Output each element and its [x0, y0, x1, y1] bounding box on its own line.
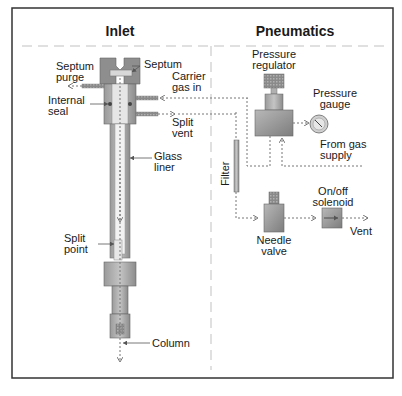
split-inlet-diagram: Inlet Pneumatics	[0, 0, 402, 396]
label-column: Column	[152, 337, 190, 349]
label-on-off-solenoid: On/offsolenoid	[313, 185, 354, 208]
pneumatics-title: Pneumatics	[256, 23, 335, 39]
label-needle-valve: Needlevalve	[257, 234, 292, 257]
label-filter: Filter	[219, 161, 231, 186]
inlet-title: Inlet	[106, 23, 135, 39]
label-pressure-regulator: Pressureregulator	[252, 48, 296, 71]
pressure-gauge	[310, 115, 328, 133]
label-split-point: Splitpoint	[64, 232, 88, 255]
septum	[110, 70, 132, 76]
label-split-vent: Splitvent	[172, 116, 193, 139]
filter	[234, 140, 239, 192]
on-off-solenoid	[322, 208, 342, 228]
label-vent: Vent	[350, 225, 372, 237]
label-septum: Septum	[144, 58, 182, 70]
label-carrier-gas-in: Carriergas in	[172, 70, 206, 93]
